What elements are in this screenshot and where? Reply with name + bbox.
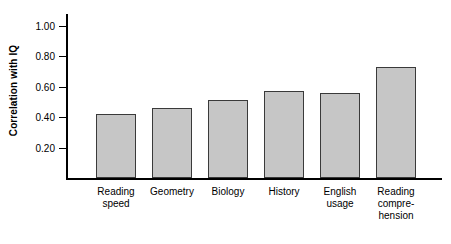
y-tick-mark [59,56,67,57]
bar [96,114,136,178]
x-axis-label: Readingspeed [85,186,147,210]
x-axis-label-line: usage [309,198,371,210]
bar [320,93,360,178]
bar [152,108,192,178]
bar [264,91,304,178]
x-axis-label-line: Geometry [141,186,203,198]
y-tick-label: 1.00 [36,20,55,31]
x-axis-label: History [253,186,315,198]
y-tick-mark [59,117,67,118]
bar [376,67,416,178]
y-tick-label: 0.80 [36,51,55,62]
y-axis-title-text: Correlation with IQ [9,44,20,135]
x-axis-label-line: hension [365,210,427,222]
x-axis-label-line: compre- [365,198,427,210]
y-axis-title: Correlation with IQ [0,0,28,180]
y-tick-mark [59,148,67,149]
x-axis-label-line: Reading [365,186,427,198]
y-tick-mark [59,87,67,88]
y-tick-mark [59,26,67,27]
x-axis-line [66,178,442,180]
chart-figure: Correlation with IQ 1.000.800.600.400.20… [0,0,451,244]
y-axis-line [66,14,68,180]
x-axis-label: Biology [197,186,259,198]
x-axis-label: Geometry [141,186,203,198]
x-axis-label: Englishusage [309,186,371,210]
plot-area: 1.000.800.600.400.20 [66,14,442,180]
x-axis-label-line: Biology [197,186,259,198]
x-axis-label-line: English [309,186,371,198]
x-axis-label-line: History [253,186,315,198]
y-tick-label: 0.40 [36,112,55,123]
x-axis-label-line: speed [85,198,147,210]
y-tick-label: 0.20 [36,142,55,153]
y-tick-label: 0.60 [36,81,55,92]
x-axis-label: Readingcompre-hension [365,186,427,222]
x-axis-label-line: Reading [85,186,147,198]
bar [208,100,248,178]
